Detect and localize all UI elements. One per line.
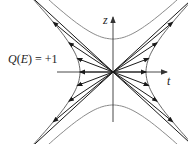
unit-vector-arrow [69, 72, 113, 101]
z-axis-label: z [103, 14, 108, 26]
unit-vector-arrow [113, 72, 188, 144]
diagram-canvas [0, 0, 188, 144]
unit-vector-arrow [113, 0, 188, 72]
unit-vector-arrow [113, 72, 157, 101]
unit-vector-arrow [69, 43, 113, 72]
eq-Q: Q [8, 52, 17, 66]
eq-E: E [21, 52, 28, 66]
unit-vector-arrow [113, 43, 157, 72]
unit-vector-arrow [53, 72, 113, 122]
t-axis-label: t [167, 75, 170, 87]
unit-vector-arrow [113, 22, 173, 72]
unit-vector-arrow [113, 72, 173, 122]
equation-label: Q(E) = +1 [8, 53, 58, 65]
unit-vector-arrow [53, 22, 113, 72]
spacetime-diagram: z t Q(E) = +1 [0, 0, 188, 144]
bottom-branch [21, 105, 188, 144]
eq-rhs: = +1 [32, 52, 58, 66]
